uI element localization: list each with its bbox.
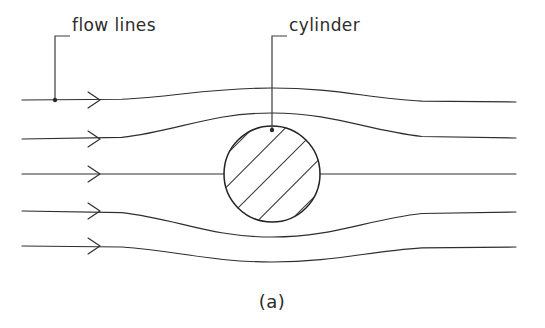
flow-arrowhead-5 bbox=[88, 238, 100, 254]
flow-around-cylinder-figure: flow lines cylinder (a) bbox=[0, 0, 545, 328]
streamline-4 bbox=[22, 211, 516, 237]
streamline-1 bbox=[22, 88, 516, 102]
hatch-line-1 bbox=[230, 132, 249, 151]
flow-lines-leader-line bbox=[55, 36, 70, 100]
hatch-line-4 bbox=[258, 160, 318, 220]
cylinder-label: cylinder bbox=[289, 15, 360, 35]
cylinder-leader-line bbox=[272, 36, 287, 130]
hatch-line-2 bbox=[226, 128, 286, 188]
flow-lines-leader-endpoint bbox=[53, 98, 57, 102]
arrowhead-group bbox=[88, 92, 100, 254]
cylinder-leader-endpoint bbox=[270, 128, 274, 132]
figure-caption: (a) bbox=[259, 291, 286, 312]
hatch-line-5 bbox=[295, 197, 314, 216]
streamline-group bbox=[22, 88, 516, 262]
leader-line-group bbox=[53, 36, 287, 132]
cylinder-hatching bbox=[226, 128, 318, 220]
figure-canvas: flow lines cylinder (a) bbox=[0, 0, 545, 328]
flow-lines-label: flow lines bbox=[72, 15, 156, 35]
flow-arrowhead-2 bbox=[88, 131, 100, 147]
hatch-line-3 bbox=[238, 140, 306, 208]
flow-arrowhead-4 bbox=[88, 203, 100, 219]
